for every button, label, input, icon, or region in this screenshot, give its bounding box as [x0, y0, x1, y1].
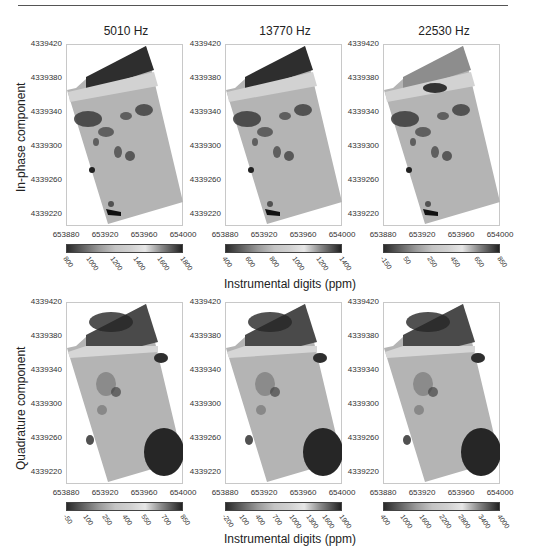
x-tick-label: 654000	[161, 230, 205, 239]
y-tick-label: 4339420	[10, 39, 62, 48]
y-tick-label: 4339380	[10, 73, 62, 82]
x-tick-label: 653920	[242, 230, 286, 239]
y-tick-label: 4339340	[10, 365, 62, 374]
y-tick-label: 4339220	[169, 209, 221, 218]
y-tick-label: 4339380	[169, 73, 221, 82]
colorbar	[225, 502, 342, 511]
colorbar	[225, 244, 342, 253]
y-tick-label: 4339420	[327, 39, 379, 48]
colorbar-tick-label: 850	[496, 255, 508, 269]
colorbar-tick-label: 1800	[179, 255, 194, 272]
y-tick-label: 4339300	[10, 141, 62, 150]
colorbar-tick-label: 400	[255, 513, 267, 527]
colorbar-title-top: Instrumental digits (ppm)	[190, 277, 390, 291]
colorbar-tick-label: 2800	[457, 513, 472, 530]
colorbar-tick-label: 50	[403, 255, 413, 265]
y-tick-label: 4339220	[169, 467, 221, 476]
x-tick-label: 653880	[203, 488, 247, 497]
x-tick-label: 653880	[44, 488, 88, 497]
y-tick-label: 4339220	[327, 467, 379, 476]
x-tick-label: 654000	[161, 488, 205, 497]
y-tick-label: 4339220	[10, 209, 62, 218]
y-tick-label: 4339420	[169, 297, 221, 306]
colorbar-tick-label: 100	[82, 513, 94, 527]
colorbar-tick-label: 1000	[288, 513, 303, 530]
x-tick-label: 653880	[361, 488, 405, 497]
y-tick-label: 4339300	[169, 141, 221, 150]
x-tick-label: 654000	[320, 230, 364, 239]
column-title-22530: 22530 Hz	[384, 24, 504, 38]
colorbar-tick-label: 1400	[132, 255, 147, 272]
colorbar	[383, 502, 500, 511]
colorbar-tick-label: 400	[221, 255, 233, 269]
colorbar-title-bottom: Instrumental digits (ppm)	[190, 532, 390, 546]
colorbar-tick-label: 1000	[291, 255, 306, 272]
colorbar	[66, 502, 183, 511]
survey-map	[383, 302, 500, 484]
colorbar-tick-label: 700	[271, 513, 283, 527]
survey-map	[225, 44, 342, 226]
x-tick-label: 653960	[122, 488, 166, 497]
x-tick-label: 653960	[281, 488, 325, 497]
colorbar-tick-label: 1300	[305, 513, 320, 530]
colorbar-tick-label: 1000	[86, 255, 101, 272]
colorbar-tick-label: 3400	[477, 513, 492, 530]
colorbar-tick-label: 400	[121, 513, 133, 527]
colorbar-tick-label: 550	[140, 513, 152, 527]
x-tick-label: 653960	[281, 230, 325, 239]
x-tick-label: 653920	[400, 230, 444, 239]
colorbar-tick-label: 250	[426, 255, 438, 269]
survey-map	[225, 302, 342, 484]
y-tick-label: 4339260	[10, 175, 62, 184]
colorbar-tick-label: -50	[62, 513, 74, 525]
y-tick-label: 4339420	[327, 297, 379, 306]
x-tick-label: 653880	[203, 230, 247, 239]
y-tick-label: 4339420	[10, 297, 62, 306]
colorbar-tick-label: 700	[160, 513, 172, 527]
survey-map	[66, 302, 183, 484]
colorbar	[66, 244, 183, 253]
header-rule	[18, 5, 508, 6]
x-tick-label: 654000	[478, 488, 522, 497]
y-tick-label: 4339300	[327, 399, 379, 408]
y-tick-label: 4339380	[327, 331, 379, 340]
x-tick-label: 653920	[83, 488, 127, 497]
y-tick-label: 4339260	[169, 433, 221, 442]
y-tick-label: 4339380	[10, 331, 62, 340]
y-tick-label: 4339300	[327, 141, 379, 150]
x-tick-label: 653960	[439, 230, 483, 239]
y-tick-label: 4339420	[169, 39, 221, 48]
colorbar-tick-label: 100	[238, 513, 250, 527]
column-title-13770: 13770 Hz	[225, 24, 345, 38]
colorbar-tick-label: 450	[449, 255, 461, 269]
y-tick-label: 4339340	[327, 107, 379, 116]
colorbar-tick-label: 600	[245, 255, 257, 269]
x-tick-label: 653920	[400, 488, 444, 497]
y-tick-label: 4339220	[327, 209, 379, 218]
colorbar-tick-label: 250	[101, 513, 113, 527]
colorbar-tick-label: 1200	[315, 255, 330, 272]
x-tick-label: 654000	[478, 230, 522, 239]
y-tick-label: 4339380	[169, 331, 221, 340]
colorbar-tick-label: 800	[62, 255, 74, 269]
colorbar-tick-label: 1400	[338, 255, 353, 272]
survey-map	[383, 44, 500, 226]
colorbar-tick-label: 4000	[496, 513, 511, 530]
colorbar-tick-label: -200	[221, 513, 235, 528]
y-tick-label: 4339220	[10, 467, 62, 476]
colorbar-tick-label: 1200	[109, 255, 124, 272]
y-tick-label: 4339380	[327, 73, 379, 82]
colorbar-tick-label: 850	[179, 513, 191, 527]
colorbar-tick-label: 800	[268, 255, 280, 269]
x-tick-label: 653920	[242, 488, 286, 497]
x-tick-label: 653960	[122, 230, 166, 239]
x-tick-label: 653960	[439, 488, 483, 497]
colorbar	[383, 244, 500, 253]
y-tick-label: 4339340	[327, 365, 379, 374]
y-tick-label: 4339340	[169, 365, 221, 374]
colorbar-tick-label: 400	[379, 513, 391, 527]
x-tick-label: 653880	[361, 230, 405, 239]
y-tick-label: 4339340	[10, 107, 62, 116]
y-tick-label: 4339260	[169, 175, 221, 184]
colorbar-tick-label: 650	[473, 255, 485, 269]
